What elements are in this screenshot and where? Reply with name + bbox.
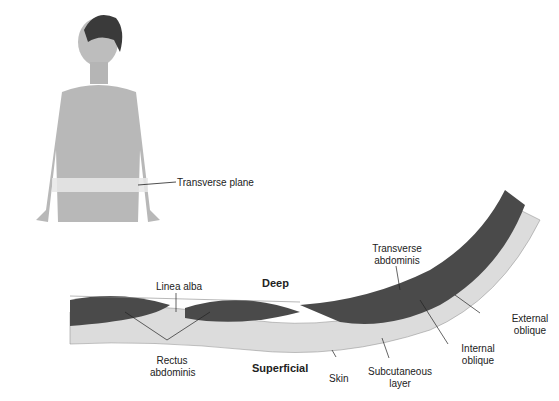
diagram-canvas [0, 0, 559, 401]
internal-oblique-label: Internal oblique [458, 343, 498, 367]
transverse-abdominis-label: Transverse abdominis [370, 243, 424, 267]
figure-silhouette [36, 15, 176, 222]
transverse-plane-label: Transverse plane [177, 177, 254, 189]
rectus-abdominis-label: Rectus abdominis [150, 355, 194, 379]
linea-alba-label: Linea alba [156, 281, 202, 293]
subcutaneous-layer-label: Subcutaneous layer [368, 366, 432, 390]
skin-label: Skin [329, 373, 348, 385]
superficial-label: Superficial [252, 362, 308, 374]
external-oblique-label: External oblique [508, 313, 552, 337]
deep-label: Deep [262, 277, 289, 289]
rectus-right [185, 300, 300, 322]
